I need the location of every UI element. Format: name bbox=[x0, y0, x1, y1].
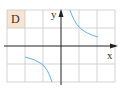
y-axis-label: y bbox=[51, 8, 57, 20]
x-axis-arrow-icon bbox=[110, 44, 118, 49]
panel-label: D bbox=[11, 11, 20, 27]
x-axis-label: x bbox=[107, 49, 113, 61]
curve-branch-quadrant-1 bbox=[70, 10, 98, 37]
curve-branch-quadrant-3 bbox=[25, 57, 52, 82]
